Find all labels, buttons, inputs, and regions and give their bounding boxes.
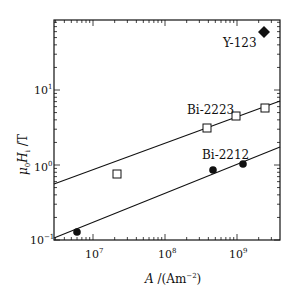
bi2223-fit-line <box>54 101 280 184</box>
x-tick-label: 109 <box>229 247 247 261</box>
y-tick-label: 101 <box>34 83 52 97</box>
chart: Y-123 Bi-2223 Bi-2212 107 108 109 10−1 1… <box>0 0 295 293</box>
bi2223-square-marker <box>261 104 269 112</box>
label-y123: Y-123 <box>222 36 257 50</box>
bi2212-circle-marker <box>209 166 217 174</box>
x-tick-label: 108 <box>158 247 176 261</box>
y-axis-label: μ0Hi /T <box>16 134 32 175</box>
bi2223-square-marker <box>203 124 211 132</box>
label-bi2223: Bi-2223 <box>187 103 234 117</box>
y-minor-ticks <box>54 22 280 240</box>
y-tick-label: 10−1 <box>30 233 54 247</box>
x-minor-ticks <box>55 20 271 240</box>
x-tick-label: 107 <box>85 247 103 261</box>
y123-diamond-marker <box>258 26 270 38</box>
label-bi2212: Bi-2212 <box>202 148 249 162</box>
bi2223-square-marker <box>113 170 121 178</box>
y-tick-label: 100 <box>34 160 52 174</box>
x-axis-label: A /(Am−2) <box>144 272 201 286</box>
plot-frame <box>54 20 280 240</box>
bi2212-circle-marker <box>73 228 81 236</box>
